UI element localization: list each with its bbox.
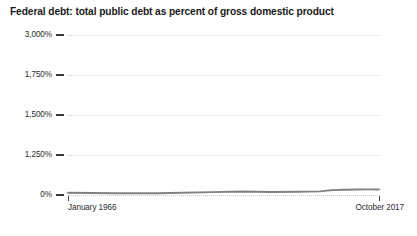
data-series-line — [0, 0, 417, 236]
x-axis-tick-label: October 2017 — [356, 203, 404, 212]
chart-figure: Federal debt: total public debt as perce… — [0, 0, 417, 236]
x-axis-tick-label: January 1966 — [68, 203, 116, 212]
x-axis-tick-mark — [379, 196, 380, 201]
plot-area: 3,000% 1,750% 1,500% 1,250% 0% January 1… — [0, 0, 417, 236]
x-axis-tick-mark — [68, 196, 69, 201]
